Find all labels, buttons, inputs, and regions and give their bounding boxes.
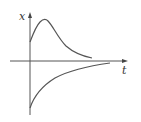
lower-curve	[30, 63, 110, 108]
upper-curve	[30, 20, 92, 58]
x-axis-label: x	[19, 10, 26, 23]
phase-diagram: x t	[0, 0, 141, 122]
x-axis-arrow-icon	[28, 12, 32, 18]
t-axis-label: t	[122, 64, 127, 77]
t-axis-arrow-icon	[122, 59, 128, 63]
